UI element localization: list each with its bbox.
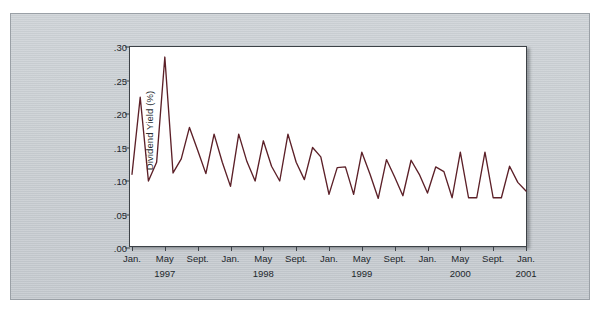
y-tick-label: .15 [114, 142, 127, 153]
x-tick-label: May [451, 253, 469, 264]
x-tick-label: Jan. [419, 253, 437, 264]
x-tick-label: Jan. [222, 253, 240, 264]
x-tick-label: Jan. [320, 253, 338, 264]
x-tick-label: May [254, 253, 272, 264]
x-tick-label: Sept. [384, 253, 406, 264]
x-tick-label: Sept. [482, 253, 504, 264]
figure-container: Dividend Yield (%) .00.05.10.15.20.25.30… [0, 0, 602, 313]
x-axis-year-label: 2001 [515, 268, 536, 279]
chart-panel-background: Dividend Yield (%) .00.05.10.15.20.25.30… [10, 13, 590, 300]
x-tick-label: Jan. [123, 253, 141, 264]
y-tick-label: .10 [114, 176, 127, 187]
y-tick-label: .25 [114, 75, 127, 86]
x-tick-label: Sept. [187, 253, 209, 264]
x-axis-year-label: 1998 [253, 268, 274, 279]
figure-caption-sliver [14, 0, 214, 5]
x-tick-label: Sept. [285, 253, 307, 264]
plot-area: Dividend Yield (%) .00.05.10.15.20.25.30… [129, 46, 527, 247]
x-axis-year-label: 1999 [351, 268, 372, 279]
y-tick-label: .20 [114, 109, 127, 120]
x-axis-year-label: 1997 [154, 268, 175, 279]
x-tick-label: Jan. [517, 253, 535, 264]
x-axis-year-label: 2000 [450, 268, 471, 279]
x-tick-label: May [156, 253, 174, 264]
y-tick-label: .05 [114, 209, 127, 220]
y-tick-label: .30 [114, 42, 127, 53]
dividend-yield-line-series [130, 47, 528, 248]
y-tick-label: .00 [114, 243, 127, 254]
x-tick-label: May [353, 253, 371, 264]
series-polyline [132, 57, 526, 198]
